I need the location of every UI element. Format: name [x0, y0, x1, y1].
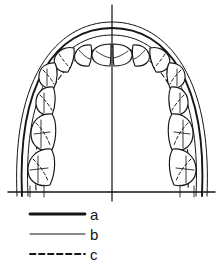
- figure-canvas: a b c: [0, 0, 223, 272]
- tooth-left-second-molar: [28, 149, 55, 186]
- line-style-legend: a b c: [30, 206, 99, 263]
- legend-entry-b: b: [30, 226, 98, 243]
- tooth-right-second-molar: [169, 149, 196, 186]
- legend-label-b: b: [90, 226, 98, 243]
- dental-arch-figure: a b c: [0, 0, 223, 272]
- legend-label-c: c: [90, 246, 98, 263]
- legend-entry-c: c: [30, 246, 98, 263]
- legend-entry-a: a: [30, 206, 99, 223]
- tooth-left-lateral-incisor: [75, 45, 92, 66]
- legend-label-a: a: [90, 206, 99, 223]
- tooth-right-lateral-incisor: [132, 45, 149, 66]
